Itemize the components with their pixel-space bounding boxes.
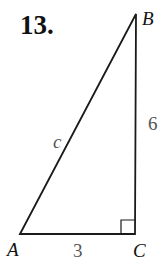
vertex-label-a: A	[5, 239, 19, 260]
side-label-ac: 3	[73, 240, 83, 261]
triangle-shape	[20, 14, 136, 234]
right-angle-marker	[121, 220, 135, 234]
problem-number: 13.	[20, 10, 54, 40]
side-label-bc: 6	[148, 113, 158, 134]
side-label-hypotenuse: c	[53, 131, 62, 152]
right-triangle-diagram: 13. B A C 6 c 3	[0, 0, 167, 271]
vertex-label-b: B	[142, 8, 154, 29]
vertex-label-c: C	[133, 240, 146, 261]
